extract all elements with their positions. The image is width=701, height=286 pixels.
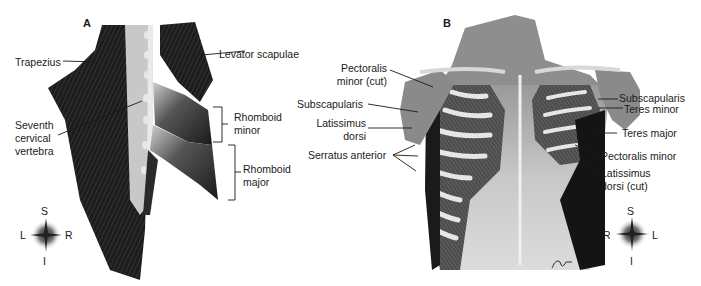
label-rhomboid-major-line2: major [243, 176, 269, 188]
panel-a-illustration [48, 22, 218, 280]
label-trapezius: Trapezius [15, 56, 61, 68]
label-subscapularis-left: Subscapularis [297, 98, 363, 110]
compass-a-left: L [20, 229, 26, 241]
label-teres-minor: Teres minor [624, 103, 679, 115]
label-latissimus-dorsi-cut-line2: dorsi (cut) [601, 180, 648, 192]
label-seventh-cervical-line1: Seventh [15, 119, 54, 131]
panel-a-letter: A [83, 17, 91, 29]
compass-b-superior: S [627, 205, 634, 217]
compass-b-right: R [603, 229, 611, 241]
label-latissimus-dorsi-cut-line1: Latissimus [601, 167, 651, 179]
label-seventh-cervical-line2: cervical [15, 132, 51, 144]
compass-b-left: L [652, 229, 658, 241]
label-seventh-cervical-line3: vertebra [15, 145, 54, 157]
compass-a-right: R [65, 229, 73, 241]
label-rhomboid-major-line1: Rhomboid [243, 163, 291, 175]
label-levator-scapulae: Levator scapulae [219, 48, 299, 60]
anatomy-figure: A Trapezius Levator scapulae Seventh cer… [0, 0, 701, 286]
label-serratus-anterior: Serratus anterior [308, 149, 386, 161]
label-rhomboid-minor-line1: Rhomboid [234, 111, 282, 123]
compass-a-inferior: I [43, 255, 46, 267]
label-teres-major: Teres major [622, 127, 677, 139]
label-pectoralis-minor-cut-line1: Pectoralis [300, 62, 387, 74]
label-pectoralis-minor-cut-line2: minor (cut) [300, 75, 387, 87]
compass-b-inferior: I [630, 255, 633, 267]
compass-a-superior: S [41, 205, 48, 217]
compass-a-graphic [30, 218, 62, 252]
compass-b-graphic [616, 217, 648, 251]
label-latissimus-dorsi-line2: dorsi [300, 130, 366, 142]
panel-b-letter: B [443, 17, 451, 29]
label-latissimus-dorsi-line1: Latissimus [300, 117, 366, 129]
label-rhomboid-minor-line2: minor [234, 124, 260, 136]
muscle-illustrations [0, 0, 701, 286]
label-pectoralis-minor: Pectoralis minor [601, 150, 676, 162]
